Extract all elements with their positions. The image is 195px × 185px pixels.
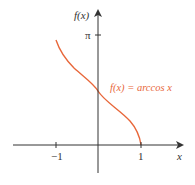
arccos-chart: −1 1 π x f(x) f(x) = arccos x (0, 0, 195, 185)
y-axis-label: f(x) (74, 9, 90, 22)
tick-label-1: 1 (138, 150, 144, 162)
x-axis-label: x (176, 150, 182, 162)
curve-label: f(x) = arccos x (110, 82, 172, 94)
tick-label-neg1: −1 (51, 150, 63, 162)
tick-label-pi: π (85, 29, 91, 41)
